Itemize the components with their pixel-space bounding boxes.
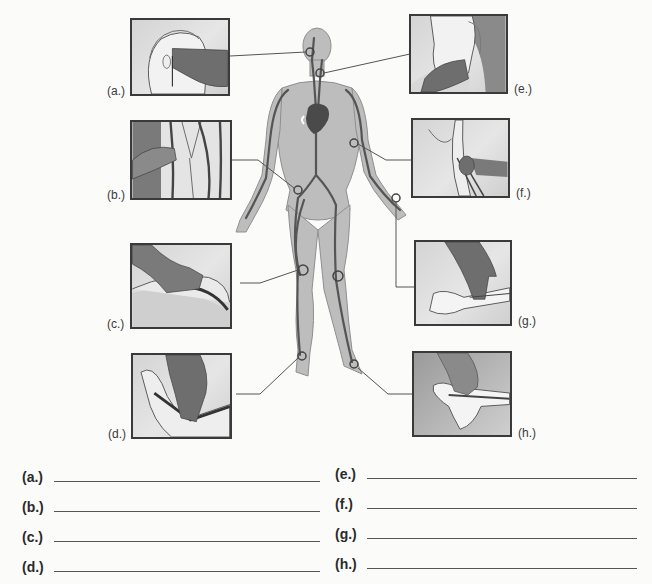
answer-input-c[interactable] [54, 525, 320, 542]
answer-label-b: (b.) [22, 499, 50, 515]
answer-row-b: (b.) [22, 495, 320, 515]
panel-a-label: (a.) [107, 84, 125, 98]
panel-g-label: (g.) [518, 314, 536, 328]
elbow-pulse-illustration [413, 120, 508, 196]
answer-input-d[interactable] [54, 555, 320, 572]
knee-pulse-illustration [132, 245, 230, 327]
ankle-pulse-illustration [133, 355, 230, 437]
panel-b-label: (b.) [107, 188, 125, 202]
answer-label-f: (f.) [335, 496, 363, 512]
answer-row-h: (h.) [335, 552, 637, 572]
answer-input-f[interactable] [367, 492, 637, 509]
panel-f-brachial-pulse [411, 118, 510, 198]
panel-f-label: (f.) [516, 186, 531, 200]
answer-input-h[interactable] [367, 552, 637, 569]
answer-label-g: (g.) [335, 526, 363, 542]
panel-h-dorsalis-pedis-pulse [412, 351, 512, 437]
wrist-pulse-illustration [416, 242, 510, 324]
panel-d-label: (d.) [108, 427, 126, 441]
answer-row-e: (e.) [335, 462, 637, 482]
answer-row-d: (d.) [22, 555, 320, 575]
answer-label-e: (e.) [335, 466, 363, 482]
answer-input-a[interactable] [54, 465, 320, 482]
panel-c-popliteal-pulse [130, 243, 232, 329]
answer-row-c: (c.) [22, 525, 320, 545]
answer-label-d: (d.) [22, 559, 50, 575]
answer-input-b[interactable] [54, 495, 320, 512]
panel-e-carotid-pulse [409, 14, 508, 94]
answer-row-a: (a.) [22, 465, 320, 485]
answer-label-h: (h.) [335, 556, 363, 572]
answer-input-e[interactable] [367, 462, 637, 479]
foot-pulse-illustration [414, 353, 510, 435]
panel-d-posterior-tibial-pulse [131, 353, 232, 439]
answer-label-c: (c.) [22, 529, 50, 545]
answer-row-g: (g.) [335, 522, 637, 542]
panel-e-label: (e.) [514, 82, 532, 96]
panel-a-temple-pulse [130, 18, 230, 96]
panel-b-femoral-pulse [130, 120, 232, 200]
neck-pulse-illustration [411, 16, 506, 92]
answer-row-f: (f.) [335, 492, 637, 512]
diagram-canvas [0, 0, 652, 460]
temple-pulse-illustration [132, 20, 228, 94]
panel-g-radial-pulse [414, 240, 512, 326]
panel-h-label: (h.) [518, 426, 536, 440]
answer-label-a: (a.) [22, 469, 50, 485]
panel-c-label: (c.) [107, 317, 124, 331]
groin-pulse-illustration [132, 122, 230, 198]
answer-input-g[interactable] [367, 522, 637, 539]
